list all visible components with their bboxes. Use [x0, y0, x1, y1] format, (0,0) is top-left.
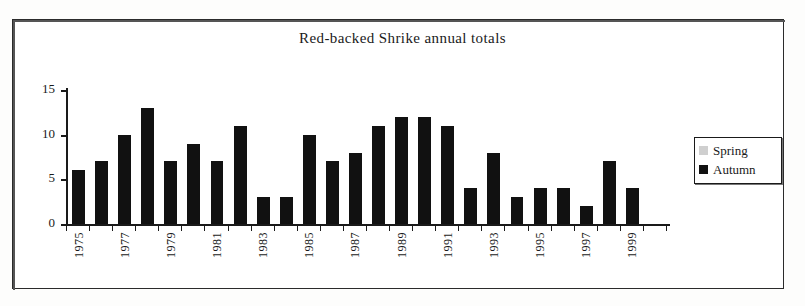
bar-slot	[141, 90, 154, 224]
bar-slot	[349, 90, 362, 224]
x-axis-tick-label: 1989	[395, 232, 410, 258]
bar-autumn	[395, 117, 408, 224]
bar-slot	[72, 90, 85, 224]
bar-autumn	[303, 135, 316, 224]
bar-autumn	[626, 188, 639, 224]
x-axis-tick	[597, 224, 598, 231]
bar-autumn	[326, 161, 339, 224]
bar-autumn	[372, 126, 385, 224]
x-axis-tick	[620, 224, 621, 231]
legend-swatch-spring-icon	[699, 146, 708, 155]
x-axis-tick	[435, 224, 436, 231]
bar-group	[67, 90, 667, 224]
x-axis-tick	[251, 224, 252, 231]
bar-slot	[580, 90, 593, 224]
bar-slot	[257, 90, 270, 224]
legend-item-spring: Spring	[699, 141, 777, 160]
x-axis-tick-label: 1985	[302, 232, 317, 258]
y-axis-tick-label: 10	[42, 125, 55, 141]
x-axis-tick	[366, 224, 367, 231]
bar-slot	[280, 90, 293, 224]
bar-slot	[211, 90, 224, 224]
x-axis-tick-label: 1993	[487, 232, 502, 258]
x-axis-tick	[204, 224, 205, 231]
bar-autumn	[534, 188, 547, 224]
bar-autumn	[580, 206, 593, 224]
bar-autumn	[487, 153, 500, 224]
bar-slot	[164, 90, 177, 224]
legend-swatch-autumn-icon	[699, 165, 708, 174]
x-axis-tick-label: 1977	[118, 232, 133, 258]
x-axis-tick-label: 1981	[210, 232, 225, 258]
x-axis-tick-label: 1997	[579, 232, 594, 258]
bar-slot	[187, 90, 200, 224]
legend-label-spring: Spring	[713, 143, 748, 159]
bar-autumn	[187, 144, 200, 224]
bar-slot	[511, 90, 524, 224]
bar-slot	[441, 90, 454, 224]
x-axis-ticks	[66, 224, 670, 231]
x-axis-tick	[458, 224, 459, 231]
bar-autumn	[141, 108, 154, 224]
x-axis-tick	[666, 224, 667, 231]
bar-slot	[95, 90, 108, 224]
bar-slot	[118, 90, 131, 224]
legend-item-autumn: Autumn	[699, 160, 777, 179]
bar-autumn	[441, 126, 454, 224]
x-axis-tick-label: 1999	[625, 232, 640, 258]
bar-autumn	[464, 188, 477, 224]
x-axis-tick	[574, 224, 575, 231]
bar-autumn	[234, 126, 247, 224]
bar-autumn	[349, 153, 362, 224]
bar-autumn	[511, 197, 524, 224]
x-axis-tick	[504, 224, 505, 231]
bar-autumn	[118, 135, 131, 224]
chart-legend: Spring Autumn	[694, 137, 782, 184]
x-axis-tick-label: 1987	[348, 232, 363, 258]
bar-autumn	[72, 170, 85, 224]
x-axis-tick	[158, 224, 159, 231]
bar-slot	[303, 90, 316, 224]
x-axis-tick	[389, 224, 390, 231]
bar-autumn	[280, 197, 293, 224]
bar-autumn	[164, 161, 177, 224]
x-axis-labels: 1975197719791981198319851987198919911993…	[66, 232, 670, 284]
bar-slot	[372, 90, 385, 224]
bar-autumn	[603, 161, 616, 224]
bar-slot	[487, 90, 500, 224]
bar-slot	[326, 90, 339, 224]
x-axis-tick-label: 1975	[72, 232, 87, 258]
x-axis-tick	[528, 224, 529, 231]
bar-autumn	[257, 197, 270, 224]
x-axis-tick-label: 1979	[164, 232, 179, 258]
bar-autumn	[95, 161, 108, 224]
x-axis-tick	[135, 224, 136, 231]
legend-label-autumn: Autumn	[713, 162, 756, 178]
x-axis-tick	[112, 224, 113, 231]
x-axis-tick	[66, 224, 67, 231]
x-axis-tick	[481, 224, 482, 231]
x-axis-tick	[551, 224, 552, 231]
bar-slot	[626, 90, 639, 224]
x-axis-tick	[89, 224, 90, 231]
bar-autumn	[557, 188, 570, 224]
chart-page: Red-backed Shrike annual totals 051015 1…	[0, 0, 805, 306]
bar-slot	[557, 90, 570, 224]
x-axis-tick-label: 1995	[533, 232, 548, 258]
chart-title: Red-backed Shrike annual totals	[0, 30, 805, 47]
x-axis-tick	[643, 224, 644, 231]
bar-slot	[603, 90, 616, 224]
y-axis-tick-label: 0	[49, 215, 56, 231]
x-axis-tick	[181, 224, 182, 231]
x-axis-tick-label: 1991	[441, 232, 456, 258]
bar-autumn	[418, 117, 431, 224]
bar-slot	[534, 90, 547, 224]
x-axis-tick	[297, 224, 298, 231]
bar-autumn	[211, 161, 224, 224]
x-axis-tick	[343, 224, 344, 231]
plot-area: 051015	[67, 90, 667, 224]
x-axis-tick	[228, 224, 229, 231]
bar-slot	[418, 90, 431, 224]
bar-slot	[395, 90, 408, 224]
bar-slot	[234, 90, 247, 224]
